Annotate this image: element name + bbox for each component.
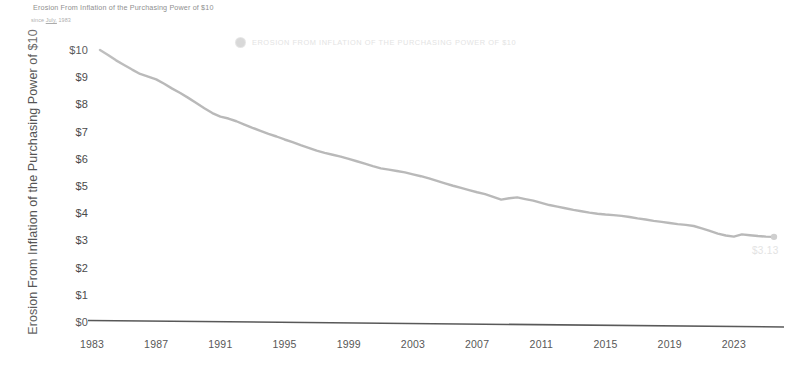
y-tick-label: $8 xyxy=(54,98,88,110)
series-line-erosion xyxy=(100,50,774,237)
end-point-marker xyxy=(771,234,777,240)
data-line-group xyxy=(100,50,774,237)
y-tick-label: $3 xyxy=(54,234,88,246)
chart-title: Erosion From Inflation of the Purchasing… xyxy=(33,3,214,12)
x-tick-label: 1995 xyxy=(272,338,296,350)
y-tick-label: $0 xyxy=(54,316,88,328)
x-axis-tick-labels: 1983198719911995199920032007201120152019… xyxy=(92,338,782,354)
y-axis-title: Erosion From Inflation of the Purchasing… xyxy=(26,17,40,347)
x-tick-label: 1987 xyxy=(144,338,168,350)
y-tick-label: $2 xyxy=(54,262,88,274)
x-tick-label: 2015 xyxy=(593,338,617,350)
x-tick-label: 2003 xyxy=(401,338,425,350)
legend-item-label: EROSION FROM INFLATION OF THE PURCHASING… xyxy=(252,38,516,47)
scan-haze-overlay xyxy=(0,0,793,368)
chart-subtitle-suffix: 1983 xyxy=(59,17,71,23)
x-tick-label: 1999 xyxy=(337,338,361,350)
y-tick-label: $4 xyxy=(54,207,88,219)
chart-plot-area xyxy=(0,0,793,368)
x-tick-label: 2019 xyxy=(658,338,682,350)
y-tick-label: $10 xyxy=(54,44,88,56)
x-tick-label: 2023 xyxy=(722,338,746,350)
x-tick-label: 2007 xyxy=(465,338,489,350)
legend-marker-icon xyxy=(236,38,245,47)
y-tick-label: $6 xyxy=(54,153,88,165)
y-tick-label: $9 xyxy=(54,71,88,83)
y-tick-label: $1 xyxy=(54,289,88,301)
x-tick-label: 1983 xyxy=(80,338,104,350)
chart-container: Erosion From Inflation of the Purchasing… xyxy=(0,0,793,368)
y-tick-label: $5 xyxy=(54,180,88,192)
chart-legend[interactable]: EROSION FROM INFLATION OF THE PURCHASING… xyxy=(236,38,516,47)
y-axis-tick-labels: $10$9$8$7$6$5$4$3$2$1$0 xyxy=(52,50,88,330)
x-tick-label: 1991 xyxy=(208,338,232,350)
end-point-value-label: $3.13 xyxy=(752,245,779,256)
x-axis-line xyxy=(88,321,784,328)
y-tick-label: $7 xyxy=(54,126,88,138)
x-tick-label: 2011 xyxy=(530,338,553,350)
chart-subtitle-link[interactable]: July, xyxy=(46,17,57,23)
